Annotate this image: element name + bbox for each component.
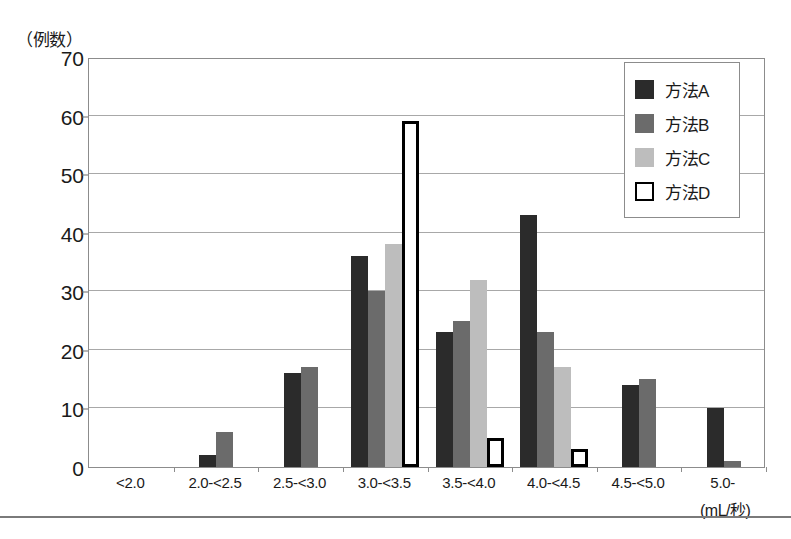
bar <box>368 291 385 467</box>
bar <box>402 121 419 467</box>
bar <box>639 379 656 467</box>
x-tick-label: <2.0 <box>116 474 144 491</box>
bar <box>436 332 453 467</box>
legend-label: 方法D <box>665 179 710 204</box>
x-tick-mark <box>258 467 259 472</box>
bar <box>537 332 554 467</box>
legend-item: 方法C <box>635 140 731 174</box>
bar <box>707 408 724 467</box>
x-tick-mark <box>428 467 429 472</box>
x-tick-mark <box>681 467 682 472</box>
legend-swatch-icon <box>635 148 654 167</box>
bar <box>724 461 741 467</box>
x-tick-label: 2.5-<3.0 <box>273 474 326 491</box>
bar <box>622 385 639 467</box>
x-tick-mark <box>597 467 598 472</box>
legend-item: 方法B <box>635 106 731 140</box>
bar <box>554 367 571 467</box>
bar-group <box>343 59 428 467</box>
y-axis-tick-marks <box>0 58 90 468</box>
legend-label: 方法C <box>665 145 710 170</box>
bar <box>487 438 504 467</box>
chart-figure: （例数） 010203040506070 <2.02.0-<2.52.5-<3.… <box>0 0 791 539</box>
x-axis-tick-labels: <2.02.0-<2.52.5-<3.03.0-<3.53.5-<4.04.0-… <box>88 474 765 504</box>
legend-label: 方法B <box>665 111 709 136</box>
bar <box>571 449 588 467</box>
x-tick-mark <box>343 467 344 472</box>
bar <box>199 455 216 467</box>
legend-label: 方法A <box>665 77 709 102</box>
bar <box>520 215 537 467</box>
x-tick-label: 4.5-<5.0 <box>612 474 665 491</box>
legend-item: 方法A <box>635 72 731 106</box>
bar <box>470 280 487 467</box>
legend-swatch-icon <box>635 80 654 99</box>
x-tick-mark <box>174 467 175 472</box>
bar-group <box>512 59 597 467</box>
x-tick-label: 3.0-<3.5 <box>358 474 411 491</box>
bar-group <box>258 59 343 467</box>
bar <box>216 432 233 467</box>
x-tick-label: 5.0- <box>710 474 735 491</box>
x-tick-mark <box>512 467 513 472</box>
x-tick-label: 2.0-<2.5 <box>188 474 241 491</box>
footer-divider <box>0 516 791 518</box>
bar <box>453 321 470 467</box>
bar <box>351 256 368 467</box>
bar-group <box>174 59 259 467</box>
legend-swatch-icon <box>635 114 654 133</box>
legend-item: 方法D <box>635 174 731 208</box>
bar <box>385 244 402 467</box>
bar-group <box>428 59 513 467</box>
bar-group <box>89 59 174 467</box>
x-tick-label: 4.0-<4.5 <box>527 474 580 491</box>
bar <box>284 373 301 467</box>
bar <box>301 367 318 467</box>
x-tick-mark <box>766 467 767 472</box>
chart-legend: 方法A方法B方法C方法D <box>624 62 740 218</box>
x-tick-label: 3.5-<4.0 <box>442 474 495 491</box>
legend-swatch-icon <box>635 182 654 201</box>
